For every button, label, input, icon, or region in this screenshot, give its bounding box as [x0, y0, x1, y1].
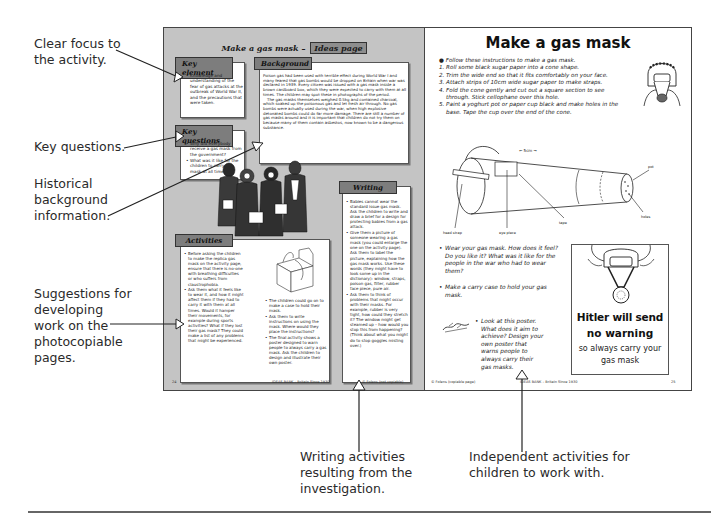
annotation-line: developing [34, 302, 132, 318]
left-page-footer-center: IDEAS BANK – Britain Since 1930 [272, 380, 330, 384]
right-page-footer-center: IDEAS BANK – Britain Since 1930 [520, 380, 578, 384]
instruction-intro: ● Follow these instructions to make a ga… [439, 57, 635, 64]
poster-task: Look at this poster. What does it aim to… [475, 318, 545, 371]
annotation-line: information. [34, 208, 110, 224]
ideas-page-header: Make a gas mask – Ideas page [164, 42, 424, 54]
ideas-page: Make a gas mask – Ideas page Key element… [163, 27, 425, 391]
writing-item: Ask them to think of problems that might… [346, 292, 409, 348]
annotation-suggestions: Suggestions for developing work on the p… [34, 286, 132, 366]
right-page-footer-copyright: © Folens (copiable page) [431, 380, 475, 384]
writing-body: Babies cannot wear the standard issue ga… [346, 199, 409, 348]
instruction-step: through. Stick cellophane over this hole… [439, 94, 635, 101]
gas-mask-cone-diagram: ← 5cm → head strap eye piece tape pot ho… [429, 136, 659, 236]
writing-item: Give them a picture of someone wearing a… [346, 230, 409, 291]
annotation-line: Key questions. [34, 139, 125, 155]
poster-headline: Hitler will send [572, 311, 668, 323]
hitler-warning-poster: Hitler will send no warning so always ca… [571, 244, 669, 375]
left-page-number: 24 [172, 380, 176, 384]
annotation-line: resulting from the [300, 465, 412, 481]
annotation-line: Clear focus to [34, 36, 121, 52]
poster-headline-2: no warning [572, 327, 668, 339]
gas-mask-poster-illustration [582, 245, 660, 309]
annotation-line: work on the [34, 318, 132, 334]
writing-item: Babies cannot wear the standard issue ga… [346, 199, 409, 230]
poster-subline-2: gas mask [572, 356, 668, 365]
annotation-line: Writing activities [300, 449, 412, 465]
annotation-clear-focus: Clear focus to the activity. [34, 36, 121, 68]
annotation-line: Independent activities for [469, 449, 630, 465]
instruction-step: 4. Fold the cone gently and cut out a sq… [439, 87, 635, 94]
poster-task-text: Look at this poster. What does it aim to… [475, 318, 545, 371]
key-element-body: Knowledge and understanding of the fear … [186, 73, 243, 106]
cardboard-box-illustration [269, 246, 319, 294]
annotation-line: children to work with. [469, 465, 630, 481]
background-body: Poison gas had been used with terrible e… [263, 74, 407, 130]
key-question-item: Why did everybody receive a gas mask fro… [186, 141, 243, 157]
background-box: Background Poison gas had been used with… [259, 62, 409, 164]
activity-question: Wear your gas mask. How does it feel? Do… [439, 245, 559, 275]
pot-label: pot [648, 165, 654, 169]
left-page-footer-copyright: © Folens (not copiable) [362, 380, 403, 384]
instruction-step: 5. Paint a yoghurt pot or paper cup blac… [439, 101, 635, 108]
annotation-line: the activity. [34, 52, 121, 68]
instruction-step: base. Tape the cup over the end of the c… [439, 109, 635, 116]
activities-left-column: Before asking the children to make the r… [184, 251, 244, 344]
annotation-line: pages. [34, 350, 132, 366]
activity-item: Ask them to write instructions on using … [265, 314, 327, 334]
eye-piece-label: eye piece [499, 231, 516, 235]
annotation-line: background [34, 192, 110, 208]
ideas-page-title: Make a gas mask – [221, 43, 305, 53]
writing-label: Writing [339, 181, 397, 194]
person-in-gas-mask-illustration [640, 56, 684, 110]
poster-subline: so always carry your [572, 344, 668, 353]
annotation-writing-activities: Writing activities resulting from the in… [300, 449, 412, 497]
activity-item: The final activity shows a poster design… [265, 335, 327, 366]
annotation-line: Suggestions for [34, 286, 132, 302]
activities-box: Activities Before asking the children to… [180, 239, 330, 383]
instruction-list: ● Follow these instructions to make a ga… [439, 57, 635, 116]
activity-item: The children could go on to make a case … [265, 298, 327, 313]
key-element-box: Key element Knowledge and understanding … [180, 62, 245, 118]
tape-label: tape [559, 221, 567, 225]
writing-box: Writing Babies cannot wear the standard … [342, 186, 411, 383]
activities-right-column: The children could go on to make a case … [265, 298, 327, 366]
annotation-independent: Independent activities for children to w… [469, 449, 630, 481]
dimension-label: ← 5cm → [519, 148, 538, 153]
background-paragraph: Poison gas had been used with terrible e… [263, 74, 407, 98]
background-label: Background [254, 57, 312, 70]
bullet-icon: ● [439, 57, 446, 63]
activity-question: Make a carry case to hold your gas mask. [439, 284, 559, 299]
annotation-line: investigation. [300, 481, 412, 497]
holes-label: holes [641, 215, 650, 219]
instruction-step: 3. Attach strips of 10cm wide sugar pape… [439, 79, 635, 86]
ideas-page-tag: Ideas page [310, 42, 366, 54]
background-paragraph: The gas masks themselves weighed 0.5kg a… [263, 98, 407, 131]
instruction-step: 2. Trim the wide end so that it fits com… [439, 72, 635, 79]
activity-questions: Wear your gas mask. How does it feel? Do… [439, 245, 559, 300]
instruction-intro-text: Follow these instructions to make a gas … [446, 57, 576, 63]
activity-page-title: Make a gas mask [425, 34, 691, 52]
key-element-item: Knowledge and understanding of the fear … [186, 73, 243, 105]
annotation-line: Historical [34, 176, 110, 192]
annotation-key-questions: Key questions. [34, 139, 125, 155]
activity-item: Before asking the children to make the r… [184, 251, 244, 287]
annotation-historical: Historical background information. [34, 176, 110, 224]
children-with-gas-masks-illustration [215, 156, 311, 238]
activity-scribble-icon [441, 320, 471, 334]
head-strap-label: head strap [443, 231, 463, 235]
instruction-step: 1. Roll some black sugar paper into a co… [439, 64, 635, 71]
activity-item: Ask them what it feels like to wear it, … [184, 287, 244, 343]
annotation-line: photocopiable [34, 334, 132, 350]
right-page-number: 25 [671, 380, 675, 384]
